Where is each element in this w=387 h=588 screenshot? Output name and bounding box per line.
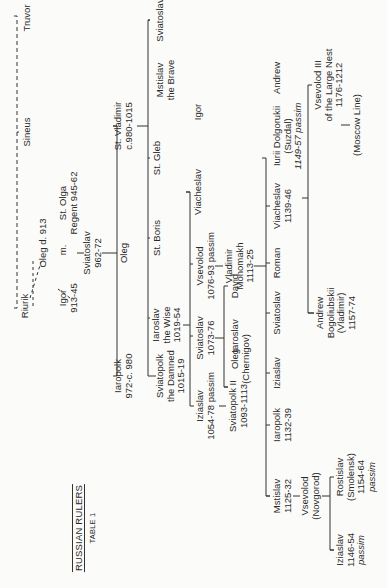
person-st-olga: St. Olga Regent 945-62 — [58, 172, 79, 235]
person-sviatopolk-damned: Sviatopolk the Damned 1015-19 — [155, 350, 187, 402]
person-andrew-m: Andrew — [272, 62, 283, 94]
person-iaroslav-wise: Iaroslav the Wise 1019-54 — [151, 307, 183, 344]
person-st-gleb: St. Gleb — [152, 141, 163, 175]
person-iziaslav-1146: Iziaslav 1146-54 passim — [335, 533, 367, 567]
person-sviatoslav-v: Sviatoslav — [155, 0, 166, 42]
person-truvor: Truvor — [22, 4, 33, 31]
person-roman: Roman — [272, 248, 283, 279]
person-oleg-913: Oleg d. 913 — [38, 218, 49, 267]
table-title: RUSSIAN RULERS TABLE 1 — [72, 484, 98, 572]
person-sviatoslav-1073: Sviatoslav 1073-76 — [195, 316, 216, 359]
person-viacheslav-1139: Viacheslav 1139-46 — [272, 183, 293, 229]
person-iaropolk-972: Iaropolk 972-c. 980 — [113, 354, 134, 399]
person-mstislav-1125: Mstislav 1125-32 — [272, 479, 293, 513]
person-vsevolod-1076: Vsevolod 1076-93 passim — [195, 232, 216, 300]
person-igor: Igor 913-45 — [58, 283, 79, 313]
person-iziaslav-1054: Iziaslav 1054-78 passim — [195, 372, 216, 440]
subtitle-text: TABLE 1 — [87, 484, 98, 572]
person-mstislav-brave: Mstislav the Brave — [155, 60, 176, 101]
scanned-page: RUSSIAN RULERS TABLE 1 Riurik Sineus Tru… — [0, 0, 387, 588]
genealogy-table: RUSSIAN RULERS TABLE 1 Riurik Sineus Tru… — [0, 0, 387, 588]
person-sviatoslav-962: Sviatoslav 962-72 — [82, 231, 103, 274]
person-igor-i: Igor — [193, 104, 204, 120]
person-andrew-bogoliubskii: Andrew Bogoliubskii (Vladimir) 1157-74 — [315, 288, 357, 339]
person-vsevolod-iii: Vsevolod III of the Large Nest 1176-1212 — [313, 49, 345, 122]
person-st-vladimir: St. Vladimir c.980-1015 — [113, 102, 134, 151]
person-sineus: Sineus — [22, 117, 33, 146]
person-sviatoslav-m: Sviatoslav — [272, 291, 283, 334]
marriage-symbol: m. — [58, 245, 69, 256]
person-iaroslav-s: Iaroslav — [230, 319, 241, 352]
person-vladimir-monomakh: Vladimir Monomakh 1113-25 — [224, 243, 256, 290]
person-st-boris: St. Boris — [152, 220, 163, 256]
person-iurii-dolgorukii: Iurii Dolgorukii (Suzdal) 1149-57 passim — [272, 103, 304, 170]
title-text: RUSSIAN RULERS — [72, 484, 85, 572]
person-oleg: Oleg — [119, 243, 130, 263]
person-iziaslav-m: Iziaslav — [272, 357, 283, 389]
person-rostislav: Rostislav (Smolensk) 1154-64 passim — [335, 453, 377, 501]
person-iaropolk-1132: Iaropolk 1132-39 — [272, 408, 293, 442]
person-riurik: Riurik — [20, 294, 31, 318]
person-viacheslav-i: Viacheslav — [193, 169, 204, 215]
moscow-line-label: (Moscow Line) — [352, 94, 363, 156]
person-vsevolod-novgorod: Vsevolod (Novgorod) — [300, 472, 321, 520]
person-sviatopolk-ii: Sviatopolk II 1093-1113 — [228, 380, 249, 432]
